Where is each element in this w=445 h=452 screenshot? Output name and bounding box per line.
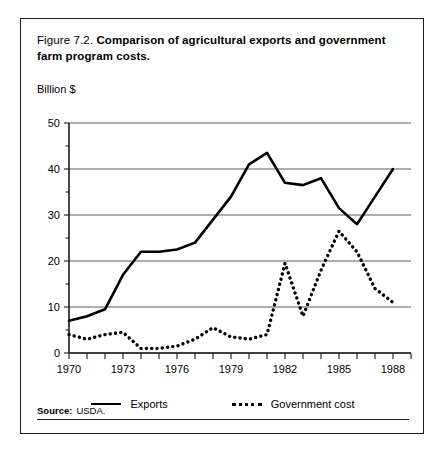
series-line-government-cost [69, 231, 393, 348]
legend-item-government-cost: Government cost [232, 398, 355, 410]
y-tick-label: 0 [54, 347, 60, 359]
source-value: USDA. [76, 405, 105, 416]
series-line-exports [69, 153, 393, 321]
figure-panel: Figure 7.2. Comparison of agricultural e… [20, 18, 424, 434]
x-tick-label: 1988 [381, 363, 405, 375]
legend-label-government-cost: Government cost [271, 398, 355, 410]
y-tick-label: 40 [48, 163, 60, 175]
line-chart: 010203040501970197319761979198219851988 [21, 19, 425, 435]
y-tick-label: 30 [48, 209, 60, 221]
source-label: Source: [37, 405, 72, 416]
y-tick-label: 50 [48, 117, 60, 129]
source-divider [37, 419, 409, 420]
y-tick-label: 20 [48, 255, 60, 267]
y-tick-label: 10 [48, 301, 60, 313]
x-tick-label: 1979 [219, 363, 243, 375]
source-note: Source:USDA. [37, 405, 105, 416]
x-tick-label: 1976 [165, 363, 189, 375]
chart-plot-area: 010203040501970197319761979198219851988 [21, 19, 425, 435]
dotted-line-swatch-icon [232, 403, 262, 406]
x-tick-label: 1970 [57, 363, 81, 375]
x-tick-label: 1985 [327, 363, 351, 375]
legend-label-exports: Exports [130, 398, 167, 410]
x-tick-label: 1973 [111, 363, 135, 375]
x-tick-label: 1982 [273, 363, 297, 375]
